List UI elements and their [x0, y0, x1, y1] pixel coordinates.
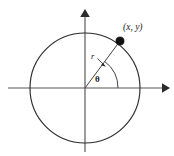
x-axis-arrowhead-icon — [162, 83, 170, 93]
angle-arc — [105, 62, 118, 88]
radius-label: r — [91, 51, 95, 61]
point-coordinate-label: (x, y) — [123, 22, 143, 33]
polar-coordinate-figure: (x, y) r θ — [0, 0, 174, 156]
point-marker — [116, 37, 124, 45]
angle-label: θ — [95, 74, 100, 84]
polar-diagram-canvas: (x, y) r θ — [0, 0, 174, 156]
y-axis-arrowhead-icon — [80, 9, 90, 17]
